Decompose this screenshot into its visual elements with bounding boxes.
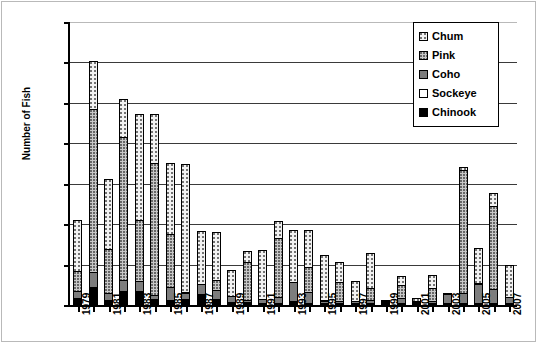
x-tick-label: 1991: [266, 293, 277, 315]
bar-segment-chum: [274, 221, 283, 240]
bar-segment-chum: [212, 232, 221, 281]
x-tick-mark: [78, 307, 80, 312]
bar-segment-chum: [181, 164, 190, 293]
x-tick-mark: [386, 307, 388, 312]
x-tick-mark: [432, 307, 434, 312]
bar-segment-pink: [166, 234, 175, 288]
x-tick-mark: [371, 307, 373, 312]
bar-segment-pink: [104, 249, 113, 294]
x-tick-label: 1993: [297, 293, 308, 315]
x-tick-label: 1981: [112, 293, 123, 315]
legend-swatch-pink: [419, 51, 428, 60]
x-tick-mark: [201, 307, 203, 312]
bar-segment-chum: [89, 61, 98, 110]
x-tick-mark: [463, 307, 465, 312]
x-tick-label: 1997: [358, 293, 369, 315]
bar-segment-pink: [119, 137, 128, 281]
x-tick-mark: [263, 307, 265, 312]
bar-segment-chum: [119, 99, 128, 139]
bar-segment-chum: [73, 220, 82, 273]
x-tick-mark: [247, 307, 249, 312]
x-tick-mark: [494, 307, 496, 312]
bar-segment-chum: [366, 253, 375, 289]
bar-segment-chum: [135, 114, 144, 221]
x-tick-label: 1985: [173, 293, 184, 315]
legend-swatch-coho: [419, 70, 428, 79]
x-tick-mark: [278, 307, 280, 312]
bar-segment-chum: [489, 193, 498, 208]
bar-1982: [119, 99, 128, 305]
bar-segment-pink: [89, 109, 98, 273]
bar-1981: [104, 179, 113, 305]
bar-segment-pink: [73, 271, 82, 291]
x-tick-mark: [155, 307, 157, 312]
legend-label: Pink: [432, 50, 455, 61]
x-tick-mark: [93, 307, 95, 312]
x-tick-label: 1989: [235, 293, 246, 315]
salmon-escapement-chart: Number of Fish 0500010000150002000025000…: [0, 0, 539, 345]
bar-segment-coho: [89, 272, 98, 288]
bar-segment-pink: [489, 206, 498, 290]
x-tick-mark: [170, 307, 172, 312]
bar-2006: [489, 193, 498, 305]
x-tick-mark: [309, 307, 311, 312]
x-tick-mark: [401, 307, 403, 312]
bar-segment-chum: [150, 114, 159, 164]
bar-1985: [166, 163, 175, 305]
bar-1986: [181, 164, 190, 305]
x-tick-label: 2003: [451, 293, 462, 315]
x-tick-label: 1995: [327, 293, 338, 315]
legend-item-coho: Coho: [419, 65, 495, 84]
legend-label: Coho: [432, 69, 460, 80]
x-tick-label: 2007: [512, 293, 523, 315]
x-tick-mark: [355, 307, 357, 312]
x-tick-mark: [417, 307, 419, 312]
bar-segment-pink: [135, 220, 144, 282]
y-tick-mark: [64, 305, 70, 307]
x-tick-label: 1999: [389, 293, 400, 315]
bar-segment-pink: [274, 238, 283, 298]
bar-1984: [150, 114, 159, 305]
bar-1980: [89, 61, 98, 305]
bar-segment-chum: [197, 231, 206, 285]
y-axis-title: Number of Fish: [21, 54, 32, 194]
x-tick-mark: [124, 307, 126, 312]
legend-swatch-chum: [419, 32, 428, 41]
bar-1983: [135, 114, 144, 305]
bar-segment-chum: [289, 230, 298, 283]
chart-legend: ChumPinkCohoSockeyeChinook: [413, 22, 499, 127]
bar-segment-chum: [166, 163, 175, 235]
bar-2004: [459, 167, 468, 305]
legend-label: Chinook: [432, 107, 476, 118]
x-tick-label: 1987: [204, 293, 215, 315]
bar-segment-pink: [459, 170, 468, 295]
legend-item-sockeye: Sockeye: [419, 84, 495, 103]
x-tick-label: 2005: [481, 293, 492, 315]
bar-segment-pink: [150, 163, 159, 296]
legend-item-chum: Chum: [419, 27, 495, 46]
legend-label: Sockeye: [432, 88, 477, 99]
bar-segment-chum: [474, 248, 483, 284]
x-tick-mark: [340, 307, 342, 312]
bar-segment-chum: [104, 179, 113, 249]
x-tick-mark: [186, 307, 188, 312]
legend-label: Chum: [432, 31, 463, 42]
bar-segment-chum: [428, 275, 437, 290]
x-tick-mark: [109, 307, 111, 312]
legend-item-pink: Pink: [419, 46, 495, 65]
legend-swatch-chinook: [419, 108, 428, 117]
x-tick-mark: [448, 307, 450, 312]
legend-item-chinook: Chinook: [419, 103, 495, 122]
x-tick-mark: [294, 307, 296, 312]
legend-swatch-sockeye: [419, 89, 428, 98]
bar-segment-chum: [335, 262, 344, 283]
bar-segment-pink: [304, 267, 313, 293]
x-tick-mark: [216, 307, 218, 312]
x-tick-label: 2001: [420, 293, 431, 315]
x-tick-label: 1979: [81, 293, 92, 315]
bar-segment-chum: [304, 230, 313, 268]
x-tick-mark: [324, 307, 326, 312]
x-tick-mark: [509, 307, 511, 312]
x-tick-mark: [232, 307, 234, 312]
x-tick-label: 1983: [142, 293, 153, 315]
